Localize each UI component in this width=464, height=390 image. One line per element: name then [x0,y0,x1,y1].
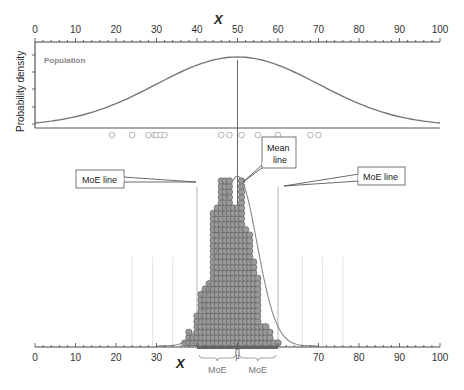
top-tick-label: 0 [32,24,38,35]
top-tick-label: 30 [151,24,163,35]
sample-point [219,132,225,138]
moe-left-callout: MoE line [76,170,196,188]
top-axis-title: X [213,12,224,27]
sample-point [255,132,261,138]
bottom-tick-label: 0 [32,352,38,363]
population-label: Population [44,56,85,65]
top-tick-label: 100 [432,24,449,35]
moe-right-callout: MoE line [284,167,405,186]
moe-right-label: MoE line [363,172,398,182]
top-tick-label: 80 [353,24,365,35]
bottom-x-axis: 0102030708090100μ [32,343,449,363]
sample-point [109,132,115,138]
sample-point [129,132,135,138]
sample-point [162,132,168,138]
bottom-axis-title: X [175,356,186,371]
top-tick-label: 10 [70,24,82,35]
sample-point [308,132,314,138]
bottom-tick-label: 90 [394,352,406,363]
bottom-tick-label: 20 [110,352,122,363]
moe-left-label: MoE line [82,175,117,185]
moe-bracket-label: MoE [248,365,267,375]
dance-of-means-chart: 0102030405060708090100 X Population Prob… [0,0,464,390]
sample-point [239,132,245,138]
mean-callout: Mean line [243,137,296,182]
top-tick-label: 20 [110,24,122,35]
sample-point [316,132,322,138]
bottom-tick-label: 70 [313,352,325,363]
y-axis-label: Probability density [15,51,26,132]
bottom-tick-label: 80 [353,352,365,363]
bottom-tick-label: 30 [151,352,163,363]
mean-label-2: line [273,155,287,165]
population-panel: Population Probability density [15,42,440,132]
top-tick-label: 40 [191,24,203,35]
sample-point [146,132,152,138]
bottom-tick-label: 10 [70,352,82,363]
mu-marker: μ [235,353,239,361]
top-tick-label: 50 [232,24,244,35]
mean-label-1: Mean [267,143,290,153]
top-tick-label: 60 [272,24,284,35]
top-tick-label: 90 [394,24,406,35]
sample-point [227,132,233,138]
top-x-axis: 0102030405060708090100 [32,24,449,42]
top-tick-label: 70 [313,24,325,35]
moe-bracket-label: MoE [208,365,227,375]
bottom-tick-label: 100 [432,352,449,363]
